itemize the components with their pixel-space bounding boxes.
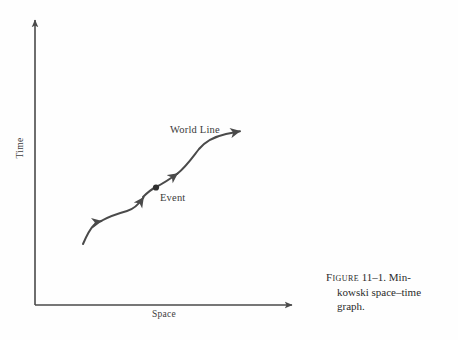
caption-line-1-tail: Min- (389, 270, 411, 285)
figure-minkowski-spacetime-graph: Time Space World Line Event Figure 11–1.… (0, 0, 458, 340)
caption-figure-number: 11–1. (362, 270, 386, 285)
y-axis-label-time: Time (15, 126, 25, 170)
world-line-segment-4 (177, 131, 240, 174)
event-marker-dot (153, 184, 159, 190)
x-axis-label-space: Space (129, 309, 199, 319)
world-line-segment-2 (101, 198, 144, 222)
caption-line-1: Figure 11–1. Min- (326, 270, 448, 285)
event-annotation-label: Event (160, 192, 186, 203)
caption-figure-word: Figure (326, 270, 359, 285)
caption-line-3: graph. (326, 299, 448, 314)
figure-caption: Figure 11–1. Min- kowski space–time grap… (326, 270, 448, 314)
caption-line-2: kowski space–time (326, 285, 448, 300)
world-line-annotation-label: World Line (170, 124, 220, 135)
world-line-segment-1 (83, 221, 102, 244)
